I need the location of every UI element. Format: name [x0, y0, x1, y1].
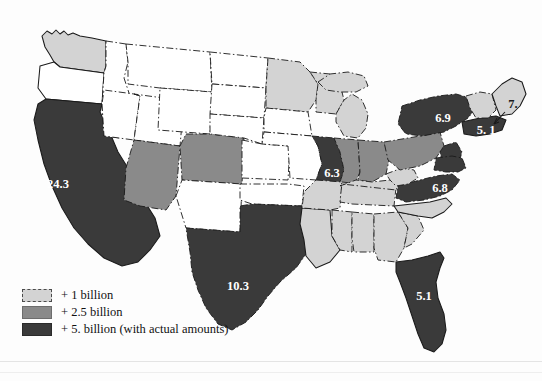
map-legend: + 1 billion + 2.5 billion + 5. billion (…: [22, 288, 228, 336]
legend-swatch-dark-gray: [22, 323, 52, 336]
legend-label-1-billion: + 1 billion: [61, 289, 113, 302]
state-northdakota: [210, 52, 268, 88]
legend-row-5-billion: + 5. billion (with actual amounts): [22, 322, 228, 336]
state-minnesota: [266, 58, 318, 112]
state-maryland-delaware: [434, 156, 466, 172]
state-newmexico: [176, 180, 242, 232]
state-arizona: [124, 140, 180, 210]
legend-row-2-5-billion: + 2.5 billion: [22, 305, 228, 319]
state-colorado: [180, 134, 244, 184]
legend-label-5-billion: + 5. billion (with actual amounts): [61, 323, 228, 336]
state-nevada: [102, 90, 140, 140]
state-arkansas: [302, 180, 342, 210]
us-choropleth-map-figure: 24.3 10.3 6.3 6.9 5. 1 6.8 5.1 7. + 1 bi…: [0, 0, 542, 381]
label-virginia: 6.8: [432, 181, 448, 195]
state-alabama: [352, 212, 374, 252]
bottom-divider-1: [0, 361, 542, 362]
legend-swatch-medium-gray: [22, 306, 52, 319]
bottom-divider-2: [0, 372, 542, 373]
state-wyoming: [158, 88, 212, 134]
label-florida: 5.1: [416, 289, 432, 303]
label-texas: 10.3: [227, 279, 249, 293]
label-massachusetts: 5. 1: [477, 123, 496, 137]
state-iowa: [264, 108, 312, 136]
state-southdakota: [210, 84, 266, 118]
state-oklahoma: [240, 184, 304, 206]
label-illinois: 6.3: [324, 166, 340, 180]
state-montana: [126, 44, 212, 92]
legend-swatch-light-gray: [22, 289, 52, 302]
legend-row-1-billion: + 1 billion: [22, 288, 228, 302]
label-california: 24.3: [47, 177, 69, 191]
label-connecticut: 7.: [508, 97, 517, 111]
legend-label-2-5-billion: + 2.5 billion: [61, 306, 123, 319]
label-newyork: 6.9: [435, 111, 451, 125]
